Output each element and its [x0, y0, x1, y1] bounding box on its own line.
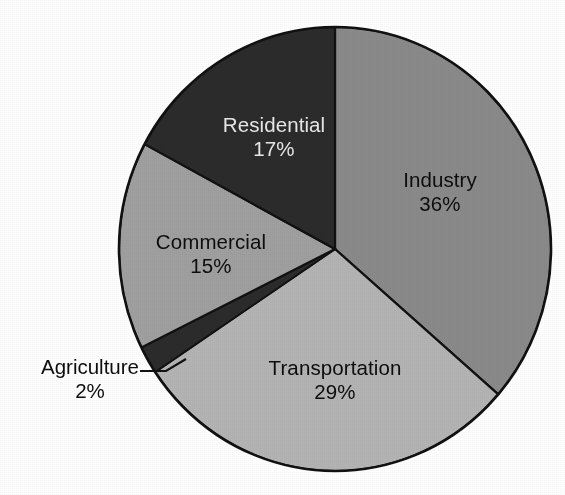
pie-chart: Industry 36% Transportation 29% Commerci… — [0, 0, 565, 495]
pie-chart-canvas — [0, 0, 565, 495]
pie-slices — [119, 27, 551, 471]
